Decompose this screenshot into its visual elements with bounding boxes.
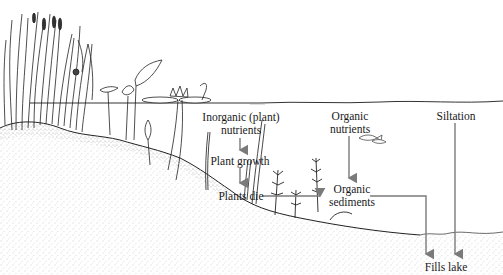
label-organic-sediments: Organic sediments [322,183,382,209]
label-plant-growth: Plant growth [202,155,278,168]
label-fills-lake: Fills lake [418,261,474,274]
lake-illustration [0,0,503,275]
label-plants-die: Plants die [216,190,266,203]
label-organic-nutrients-line2: nutrients [320,123,380,136]
label-organic-sediments-line2: sediments [322,196,382,209]
water-surface [30,101,503,104]
label-siltation: Siltation [432,110,480,123]
label-organic-nutrients-line1: Organic [320,110,380,123]
label-inorganic-nutrients-line1: Inorganic (plant) [196,111,286,124]
emergent-reeds [4,12,93,132]
label-organic-sediments-line1: Organic [322,183,382,196]
label-organic-nutrients: Organic nutrients [320,110,380,136]
fish [359,135,386,143]
lake-succession-diagram: Inorganic (plant) nutrients Plant growth… [0,0,503,275]
label-inorganic-nutrients: Inorganic (plant) nutrients [196,111,286,137]
label-inorganic-nutrients-line2: nutrients [196,124,286,137]
